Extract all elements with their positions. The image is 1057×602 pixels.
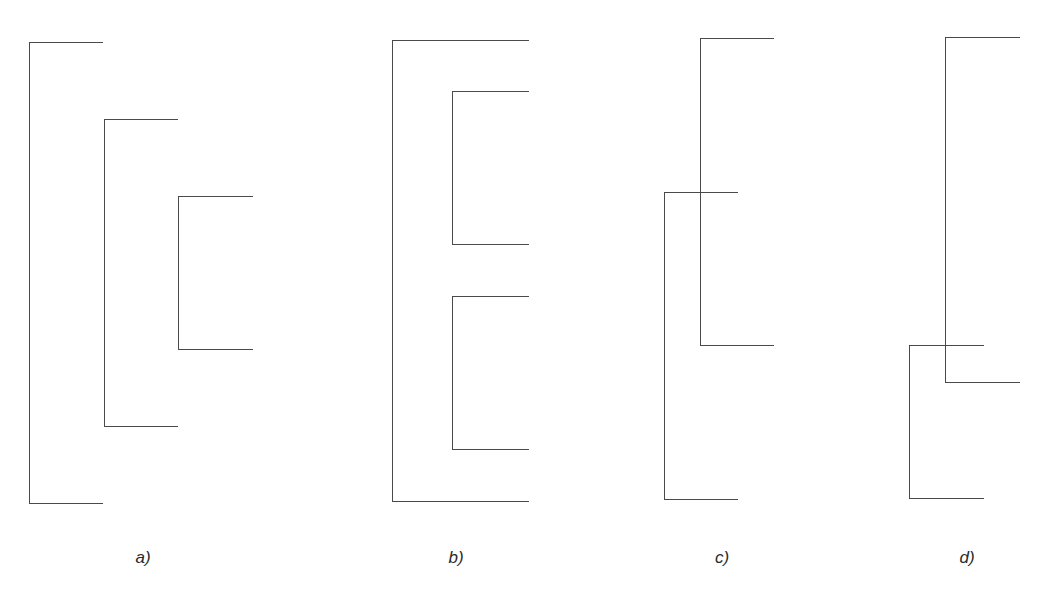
bracket-a-middle [104,119,178,427]
bracket-a-outer [29,42,103,504]
panel-label-c: c) [715,548,729,568]
bracket-d-first [945,37,1020,383]
panel-label-b: b) [448,548,463,568]
bracket-b-inner-2 [452,296,529,450]
bracket-b-inner-1 [452,91,529,245]
bracket-a-inner [178,196,253,350]
panel-label-a: a) [135,548,150,568]
bracket-c-second [664,192,738,500]
bracket-d-second [909,345,984,499]
bracket-nesting-figure: a)b)c)d) [0,0,1057,602]
panel-label-d: d) [959,548,974,568]
